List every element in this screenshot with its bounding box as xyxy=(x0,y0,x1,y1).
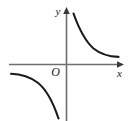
origin-label: O xyxy=(51,65,60,79)
x-axis-label: x xyxy=(116,67,122,79)
coordinate-plane-svg: y x O xyxy=(0,0,132,121)
y-axis-label: y xyxy=(55,5,61,17)
hyperbola-figure: y x O xyxy=(0,0,132,121)
